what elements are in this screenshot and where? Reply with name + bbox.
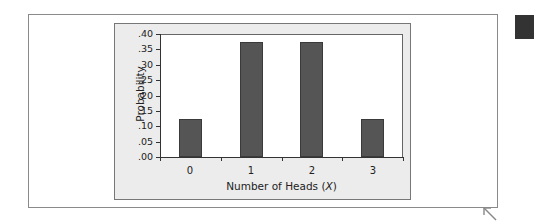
y-axis-line bbox=[160, 34, 161, 158]
x-tick-label: 3 bbox=[363, 165, 383, 176]
y-tick-label: .05 bbox=[123, 137, 153, 147]
x-tick-label: 1 bbox=[241, 165, 261, 176]
section-marker-square bbox=[515, 15, 534, 39]
x-tick-label: 2 bbox=[302, 165, 322, 176]
x-axis-label-text: Number of Heads ( bbox=[226, 180, 325, 192]
y-tick-label: .40 bbox=[123, 29, 153, 39]
bar-x-3 bbox=[361, 119, 384, 157]
x-tick bbox=[403, 157, 404, 161]
bar-x-2 bbox=[300, 42, 323, 157]
x-axis-label: Number of Heads (X) bbox=[160, 180, 403, 192]
resize-arrow-icon[interactable] bbox=[480, 206, 500, 222]
x-tick-label: 0 bbox=[180, 165, 200, 176]
y-tick-label: .35 bbox=[123, 44, 153, 54]
y-axis-label: Probability bbox=[134, 54, 146, 134]
bar-x-1 bbox=[240, 42, 263, 157]
bar-x-0 bbox=[179, 119, 202, 157]
x-axis-label-close: ) bbox=[333, 180, 337, 192]
x-axis-line bbox=[160, 157, 403, 158]
x-axis-label-variable: X bbox=[326, 180, 333, 192]
y-tick-label: .00 bbox=[123, 152, 153, 162]
